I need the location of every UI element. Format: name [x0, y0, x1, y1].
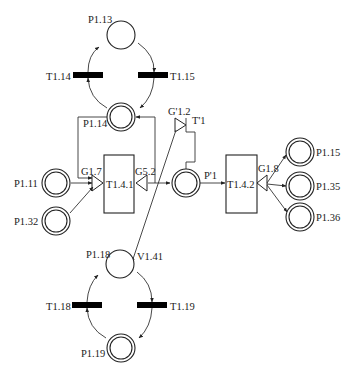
arc-p113-t115	[138, 43, 154, 72]
place-p111-label: P1.11	[14, 178, 38, 189]
middle-right: P'1 T1.4.2 G1.8 P1.15 P1.35 P1.36	[172, 138, 340, 231]
gate-g17[interactable]	[92, 175, 103, 191]
place-p118-label: P1.18	[86, 249, 110, 260]
arc-g18-p135	[267, 184, 286, 186]
arc-t118-p118	[87, 275, 98, 302]
gate-g52[interactable]	[136, 175, 147, 191]
place-p119-inner-ring	[110, 337, 132, 359]
arc-t115-p114	[140, 78, 154, 108]
transition-t142-label: T1.4.2	[227, 179, 254, 190]
place-p114-label: P1.14	[83, 118, 108, 129]
arc-p119-t118	[87, 308, 106, 338]
transition-t115[interactable]	[138, 72, 168, 78]
gate-g18[interactable]	[257, 175, 267, 191]
transition-t115-label: T1.15	[170, 71, 195, 82]
gate-gprime12[interactable]	[175, 118, 186, 132]
transition-t114-label: T1.14	[46, 71, 72, 82]
annotation-v141: V1.41	[137, 251, 163, 262]
gate-g18-label: G1.8	[258, 163, 279, 174]
bottom-cycle: P1.18 V1.41 T1.18 T1.19 P1.19	[46, 249, 195, 362]
place-p136-label: P1.36	[316, 212, 340, 223]
transition-tprime1-label: T'1	[192, 115, 206, 126]
place-pprime1-label: P'1	[204, 170, 217, 181]
arc-t114-p113	[88, 47, 99, 72]
place-p135-label: P1.35	[316, 181, 340, 192]
place-pprime1-inner-ring	[175, 172, 197, 194]
arc-p132-g17	[70, 187, 93, 213]
place-p111-inner-ring	[45, 172, 67, 194]
place-p132-label: P1.32	[14, 216, 38, 227]
petri-net-diagram: P1.13 T1.14 T1.15 P1.14 P1.11 P1.32 T1.4…	[0, 0, 359, 374]
gate-gprime12-label: G'1.2	[168, 106, 191, 117]
transition-t119-label: T1.19	[170, 301, 195, 312]
place-p132-inner-ring	[45, 210, 67, 232]
transition-t118[interactable]	[72, 302, 102, 308]
arc-g18-p136	[267, 185, 287, 212]
place-p136-inner-ring	[289, 206, 311, 228]
place-p115-label: P1.15	[316, 147, 340, 158]
transition-t119[interactable]	[137, 302, 167, 308]
arc-t119-p119	[139, 308, 152, 338]
place-p113[interactable]	[107, 21, 135, 49]
arc-p118-t119	[137, 272, 152, 302]
transition-t141-label: T1.4.1	[106, 179, 133, 190]
transition-t114[interactable]	[73, 72, 103, 78]
arc-tprime1-pprime1	[186, 132, 195, 169]
place-p115-inner-ring	[289, 141, 311, 163]
gate-g52-label: G5.2	[135, 166, 156, 177]
place-p114-inner-ring	[110, 106, 132, 128]
place-p135-inner-ring	[289, 175, 311, 197]
place-p119-label: P1.19	[81, 348, 105, 359]
arc-gprime12-p118	[132, 130, 176, 262]
gate-g17-label: G1.7	[81, 166, 102, 177]
arc-p114-t114	[88, 78, 107, 108]
transition-t118-label: T1.18	[46, 301, 71, 312]
place-p113-label: P1.13	[88, 14, 112, 25]
